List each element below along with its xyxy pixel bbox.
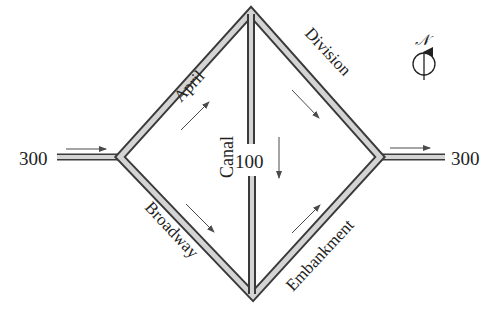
diagram-svg: 300 300 April Division Broadway Embankme… (0, 0, 499, 312)
inflow-value: 300 (19, 148, 48, 169)
compass-north-label: 𝒩 (415, 32, 434, 48)
traffic-network-diagram: 300 300 April Division Broadway Embankme… (0, 0, 499, 312)
street-label-canal: Canal (217, 136, 237, 178)
outflow-value: 300 (451, 148, 480, 169)
compass: 𝒩 (413, 32, 435, 80)
arrow-division-icon (292, 90, 319, 118)
arrow-april-icon (181, 102, 209, 130)
canal-flow-value: 100 (235, 151, 264, 172)
